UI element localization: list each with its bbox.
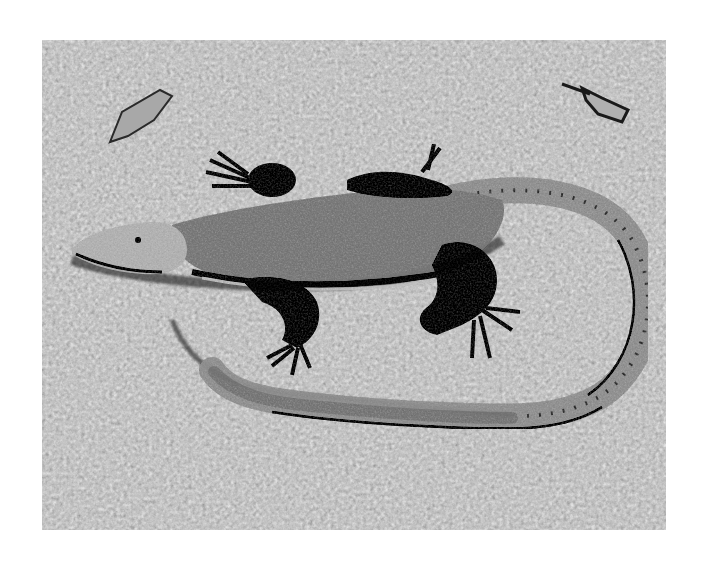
lizard-photograph	[42, 40, 666, 530]
page: Top-down black-and-white photograph of a…	[0, 0, 708, 561]
lizard-eye	[135, 237, 141, 243]
